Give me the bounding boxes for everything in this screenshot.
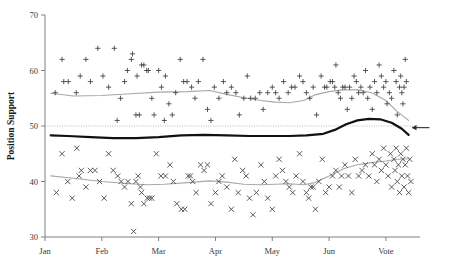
y-axis-title: Position Support [6,91,16,160]
x-tick-label: Feb [95,246,108,256]
y-tick-label: 30 [30,232,39,242]
poll-scatter-figure: 3040506070JanFebMarAprMayJunVotePosition… [0,0,451,269]
y-tick-label: 40 [30,177,39,187]
x-tick-label: Vote [378,246,394,256]
data-points-group [53,46,414,234]
x-tick-label: Mar [152,246,166,256]
oppose-trend [51,159,409,185]
y-tick-label: 50 [30,121,39,131]
x-tick-label: Jan [39,246,51,256]
y-tick-label: 70 [30,10,39,20]
support-trend [51,90,409,121]
axis-labels-group: 3040506070JanFebMarAprMayJunVotePosition… [6,10,394,256]
y-tick-label: 60 [30,66,39,76]
trend-lines-group [51,90,409,185]
annotations-group [411,125,429,130]
series-cross [54,146,414,234]
net-position-trend [51,119,409,138]
x-tick-label: May [264,246,280,256]
chart-canvas: 3040506070JanFebMarAprMayJunVotePosition… [0,0,451,269]
x-tick-label: Apr [209,246,222,256]
x-tick-label: Jun [323,246,336,256]
series-plus [53,46,409,123]
